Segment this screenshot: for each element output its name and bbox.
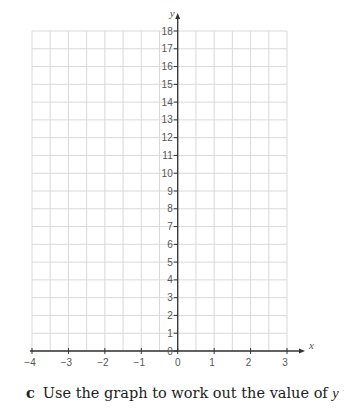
y-tick-label: 7 (167, 221, 173, 232)
y-tick-label: 6 (167, 239, 173, 250)
x-tick-label: −4 (24, 357, 36, 368)
y-tick-label: 15 (162, 79, 174, 90)
x-tick-label: 2 (246, 357, 252, 368)
x-tick-label: −3 (61, 357, 73, 368)
question-c: cUse the graph to work out the value of … (26, 384, 344, 402)
y-tick-label: 16 (162, 61, 174, 72)
question-text-2: when (339, 385, 344, 401)
x-tick-label: 0 (175, 357, 181, 368)
grid-lines (32, 31, 287, 351)
y-tick-label: 4 (167, 274, 173, 285)
blank-coordinate-grid: −4−3−2−101230123456789101112131415161718… (0, 0, 344, 380)
y-tick-label: 12 (162, 132, 174, 143)
x-tick-label: −1 (134, 357, 146, 368)
y-tick-label: 11 (162, 150, 173, 161)
y-tick-label: 13 (162, 114, 174, 125)
y-tick-label: 8 (167, 203, 173, 214)
y-tick-label: 0 (167, 346, 173, 357)
y-tick-label: 9 (167, 186, 173, 197)
y-tick-label: 10 (162, 168, 174, 179)
y-tick-label: 14 (162, 97, 174, 108)
y-tick-label: 5 (167, 257, 173, 268)
question-letter: c (26, 384, 35, 401)
x-tick-label: 3 (282, 357, 288, 368)
tick-labels: −4−3−2−101230123456789101112131415161718… (24, 7, 314, 368)
y-tick-label: 17 (162, 43, 174, 54)
question-text-1: Use the graph to work out the value of (43, 385, 333, 401)
y-tick-label: 1 (167, 328, 173, 339)
y-axis-label: y (169, 7, 175, 19)
x-axis-label: x (308, 339, 314, 351)
y-tick-label: 18 (162, 26, 174, 37)
y-tick-label: 2 (167, 310, 173, 321)
x-tick-label: −2 (97, 357, 109, 368)
x-tick-label: 1 (209, 357, 215, 368)
y-tick-label: 3 (167, 292, 173, 303)
